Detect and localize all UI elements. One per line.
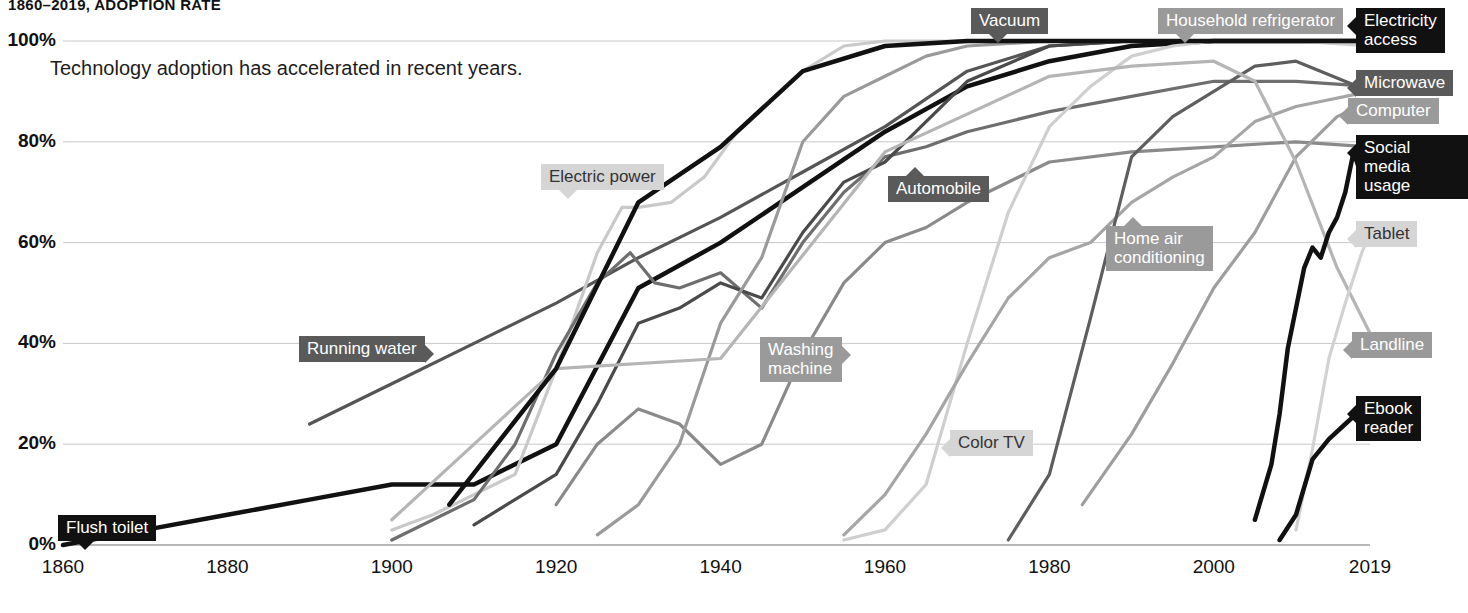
callout-tail-left <box>1347 79 1356 97</box>
chart-root: 1860–2019, ADOPTION RATE Technology adop… <box>0 0 1468 613</box>
callout-color-tv: Color TV <box>950 430 1033 456</box>
x-axis-tick-label: 1960 <box>840 556 930 578</box>
x-axis-tick-label: 2000 <box>1169 556 1259 578</box>
y-axis-tick-label: 60% <box>0 231 56 253</box>
series-line-electric-power <box>392 41 1370 530</box>
callout-electric-power: Electric power <box>541 164 664 190</box>
callout-tail-left <box>1343 341 1352 359</box>
callout-tail-left <box>1347 230 1356 248</box>
callout-tail-left <box>1339 107 1348 125</box>
series-line-color-tv <box>844 41 1370 540</box>
y-axis-tick-label: 100% <box>0 29 56 51</box>
y-axis-tick-label: 0% <box>0 533 56 555</box>
callout-label: Washing machine <box>768 340 834 378</box>
callout-label: Household refrigerator <box>1166 11 1335 30</box>
callout-tail-right <box>842 346 851 364</box>
callout-label: Computer <box>1356 101 1431 120</box>
x-axis-tick-label: 2019 <box>1325 556 1415 578</box>
callout-label: Electricity access <box>1364 11 1437 49</box>
callout-landline: Landline <box>1352 332 1432 358</box>
y-axis-tick-label: 80% <box>0 130 56 152</box>
x-axis-tick-label: 1980 <box>1004 556 1094 578</box>
y-axis-tick-label: 40% <box>0 331 56 353</box>
callout-tail-left <box>941 439 950 457</box>
callout-tail-down <box>76 541 94 550</box>
line-chart-canvas <box>0 0 1468 613</box>
series-line-microwave <box>1008 61 1370 540</box>
callout-automobile: Automobile <box>888 176 989 202</box>
callout-label: Vacuum <box>979 11 1040 30</box>
callout-tail-left <box>1347 144 1356 162</box>
callout-microwave: Microwave <box>1356 70 1453 96</box>
callout-tail-down <box>1176 34 1194 43</box>
callout-label: Tablet <box>1364 224 1409 243</box>
callout-vacuum: Vacuum <box>971 8 1048 34</box>
callout-tail-right <box>425 345 434 363</box>
callout-home-air-conditioning: Home air conditioning <box>1106 226 1213 271</box>
series-lines <box>63 41 1370 545</box>
callout-electricity-access: Electricity access <box>1356 8 1445 53</box>
callout-tail-up <box>906 167 924 176</box>
callout-label: Landline <box>1360 335 1424 354</box>
callout-running-water: Running water <box>299 336 425 362</box>
callout-label: Social media usage <box>1364 138 1410 195</box>
callout-tail-up <box>1124 217 1142 226</box>
callout-label: Ebook reader <box>1364 399 1413 437</box>
callout-tail-down <box>559 190 577 199</box>
callout-tail-left <box>1347 405 1356 423</box>
x-axis-tick-label: 1920 <box>511 556 601 578</box>
callout-label: Automobile <box>896 179 981 198</box>
callout-label: Home air conditioning <box>1114 229 1205 267</box>
callout-flush-toilet: Flush toilet <box>58 515 156 541</box>
callout-tail-left <box>1347 17 1356 35</box>
y-axis-tick-label: 20% <box>0 432 56 454</box>
x-axis-tick-label: 1940 <box>676 556 766 578</box>
x-axis-tick-label: 1880 <box>182 556 272 578</box>
callout-social-media-usage: Social media usage <box>1356 135 1468 199</box>
callout-household-refrigerator: Household refrigerator <box>1158 8 1343 34</box>
callout-label: Color TV <box>958 433 1025 452</box>
callout-washing-machine: Washing machine <box>760 337 842 382</box>
callout-computer: Computer <box>1348 98 1439 124</box>
callout-label: Electric power <box>549 167 656 186</box>
callout-label: Microwave <box>1364 73 1445 92</box>
callout-ebook-reader: Ebook reader <box>1356 396 1421 441</box>
x-axis-tick-label: 1860 <box>18 556 108 578</box>
callout-label: Running water <box>307 339 417 358</box>
callout-tail-down <box>989 34 1007 43</box>
callout-label: Flush toilet <box>66 518 148 537</box>
callout-tablet: Tablet <box>1356 221 1417 247</box>
x-axis-tick-label: 1900 <box>347 556 437 578</box>
